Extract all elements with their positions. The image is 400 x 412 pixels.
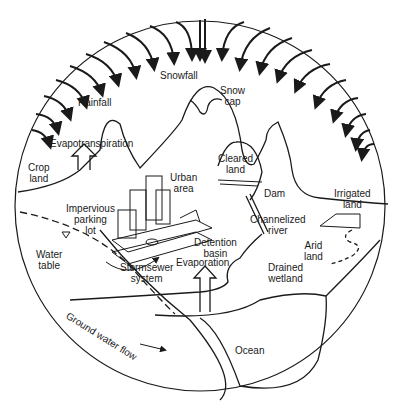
label-irrigated-land: Irrigated land xyxy=(334,188,371,210)
label-evapotranspiration: Evapotranspiration xyxy=(50,138,133,149)
label-cleared-land: Cleared land xyxy=(218,153,253,175)
dam-water xyxy=(218,180,262,186)
irrigated-land-plot xyxy=(320,214,360,228)
label-urban-area: Urban area xyxy=(170,172,197,194)
label-detention-basin: Detention basin xyxy=(194,237,237,259)
ocean-bottom xyxy=(200,296,326,388)
label-drained-wetland: Drained wetland xyxy=(268,262,303,284)
arid-land-path xyxy=(330,230,359,264)
label-snowfall: Snowfall xyxy=(160,70,198,81)
label-dam: Dam xyxy=(264,188,285,199)
label-water-table: Water table xyxy=(36,249,62,271)
ground-water-flow-arrow-icon xyxy=(140,344,165,350)
label-channelized-river: Channelized river xyxy=(250,214,306,236)
snow-cap xyxy=(190,99,222,114)
earth-right-boundary xyxy=(326,240,380,296)
label-arid-land: Arid land xyxy=(304,240,323,262)
evaporation-arrow-icon xyxy=(194,266,216,312)
label-stormsewer-system: Stormsewer system xyxy=(120,262,173,284)
label-evaporation: Evaporation xyxy=(176,257,229,268)
label-snow-cap: Snow cap xyxy=(220,85,245,107)
label-crop-land: Crop land xyxy=(28,162,50,184)
label-impervious-parking-lot: Impervious parking lot xyxy=(66,203,115,236)
label-ocean: Ocean xyxy=(235,345,264,356)
label-rainfall: Rainfall xyxy=(78,97,111,108)
precipitation-arrow-icon xyxy=(32,20,200,146)
